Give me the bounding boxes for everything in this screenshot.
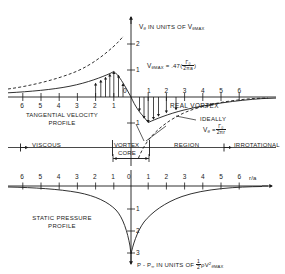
top-x-tick-left-1: 1 [112, 103, 116, 110]
bottom-y-tick-neg2: 2 [136, 228, 140, 235]
velocity-arrows-left [96, 72, 123, 97]
bottom-x-tick-left-4: 4 [57, 174, 61, 181]
ideal-velocity-formula: Vθ =Γ₀2πr [203, 124, 226, 136]
region-label-irrotational: IRROTATIONAL [234, 142, 280, 148]
top-x-tick-right-1: 1 [147, 88, 151, 95]
bottom-x-tick-right-2: 2 [165, 174, 169, 181]
bottom-x-tick-left-2: 2 [93, 174, 97, 181]
ideally-leader-line [176, 116, 196, 120]
bottom-x-tick-left-1: 1 [111, 174, 115, 181]
top-x-tick-left-6: 6 [20, 103, 24, 110]
top-axis-theta-max: θMAX [192, 26, 204, 31]
bottom-y-tick-neg1: 1 [136, 206, 140, 213]
bottom-axis-units-text: IN UNITS OF [156, 262, 194, 268]
bottom-x-tick-right-1: 1 [147, 174, 151, 181]
x-axis-label: r/a [249, 175, 257, 181]
vortex-profile-figure: Vθ IN UNITS OF VθMAX VθMAX = .47(Γ₀2πa) … [0, 0, 285, 274]
top-axis-label: Vθ IN UNITS OF VθMAX [139, 24, 204, 31]
ideal-curve-left [8, 36, 124, 89]
real-vortex-label: REAL VORTEX [170, 103, 219, 109]
peak-formula-fraction: Γ₀2πa [182, 60, 194, 72]
region-label-region: REGION [174, 142, 199, 148]
top-x-tick-left-5: 5 [39, 103, 43, 110]
bottom-x-tick-right-4: 4 [201, 174, 205, 181]
peak-formula-denominator: 2πa [182, 66, 194, 71]
static-pressure-caption-line2: PROFILE [14, 223, 110, 229]
bottom-x-tick-right-6: 6 [237, 174, 241, 181]
region-label-core: CORE [118, 150, 136, 156]
peak-formula-theta-max: θMAX [152, 65, 164, 70]
ideal-formula-fraction: Γ₀2πr [216, 124, 227, 136]
ideal-formula-theta: θ [208, 129, 210, 134]
top-y-tick-2: 2 [136, 41, 140, 48]
peak-velocity-formula: VθMAX = .47(Γ₀2πa) [147, 60, 196, 72]
bottom-x-tick-zero: 0 [127, 174, 131, 181]
top-x-tick-right-4: 4 [201, 88, 205, 95]
peak-formula-equals: = .47 [166, 63, 181, 69]
ideal-formula-denominator: 2πr [216, 130, 227, 135]
bottom-axis-rho-v: ρV [201, 262, 209, 268]
tangential-profile-caption-line2: PROFILE [8, 120, 116, 126]
top-x-tick-right-2: 2 [165, 88, 169, 95]
static-pressure-curve-right [131, 187, 262, 255]
bottom-x-tick-left-5: 5 [39, 174, 43, 181]
bottom-axis-label: P - P∞ IN UNITS OF 12ρV2θMAX [137, 259, 224, 271]
bottom-axis-infinity: ∞ [151, 264, 154, 269]
top-x-tick-right-3: 3 [183, 88, 187, 95]
ideally-label: IDEALLY [200, 116, 226, 122]
figure-canvas [0, 0, 285, 274]
bottom-x-tick-left-6: 6 [20, 174, 24, 181]
top-x-tick-left-4: 4 [57, 103, 61, 110]
top-axis-units-text: IN UNITS OF [148, 24, 186, 30]
top-x-tick-left-3: 3 [75, 103, 79, 110]
peak-formula-close-paren: ) [194, 63, 196, 69]
bottom-axis-p-minus: P - P [137, 262, 151, 268]
bottom-x-tick-right-3: 3 [183, 174, 187, 181]
bottom-y-tick-neg3: 3 [136, 250, 140, 257]
bottom-x-tick-right-5: 5 [219, 174, 223, 181]
top-x-tick-right-6: 6 [237, 88, 241, 95]
region-label-vortex: VORTEX [114, 142, 139, 148]
top-y-tick-1: 1 [136, 67, 140, 74]
core-leader-2 [146, 126, 166, 141]
top-x-tick-left-2: 2 [93, 103, 97, 110]
top-x-tick-right-5: 5 [219, 88, 223, 95]
bottom-x-tick-left-3: 3 [75, 174, 79, 181]
tangential-profile-caption-line1: TANGENTIAL VELOCITY [8, 112, 116, 118]
real-vortex-curve-left [8, 72, 131, 98]
top-y-tick-neg1: 1 [136, 120, 140, 127]
region-label-viscous: VISCOUS [32, 142, 61, 148]
top-y-tick-0: 0 [123, 88, 127, 95]
top-axis-theta: θ [144, 26, 146, 31]
core-leader-1 [136, 124, 144, 141]
bottom-axis-max: MAX [214, 264, 224, 269]
static-pressure-caption-line1: STATIC PRESSURE [14, 215, 110, 221]
